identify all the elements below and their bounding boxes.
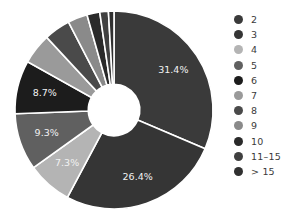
- slice-value-label: 26.4%: [123, 171, 153, 182]
- legend-item[interactable]: 2: [231, 12, 303, 27]
- legend-swatch-icon: [234, 152, 243, 161]
- legend-label: 11–15: [251, 151, 281, 162]
- legend-item[interactable]: 3: [231, 27, 303, 42]
- legend-item[interactable]: > 15: [231, 164, 303, 179]
- legend-item[interactable]: 4: [231, 42, 303, 57]
- chart-legend: 234567891011–15> 15: [231, 12, 303, 190]
- legend-item[interactable]: 11–15: [231, 149, 303, 164]
- legend-label: 10: [251, 136, 264, 147]
- legend-swatch-icon: [234, 106, 243, 115]
- legend-swatch-icon: [234, 167, 243, 176]
- legend-swatch-icon: [234, 15, 243, 24]
- legend-swatch-icon: [234, 76, 243, 85]
- legend-label: > 15: [251, 166, 275, 177]
- figure: 31.4%26.4%7.3%9.3%8.7% 234567891011–15> …: [0, 0, 303, 217]
- legend-swatch-icon: [234, 30, 243, 39]
- legend-item[interactable]: 7: [231, 88, 303, 103]
- legend-swatch-icon: [234, 137, 243, 146]
- legend-label: 7: [251, 90, 257, 101]
- legend-label: 5: [251, 60, 257, 71]
- legend-item[interactable]: 10: [231, 134, 303, 149]
- legend-item[interactable]: 6: [231, 73, 303, 88]
- legend-label: 8: [251, 105, 257, 116]
- legend-swatch-icon: [234, 45, 243, 54]
- donut-slice[interactable]: [114, 11, 213, 149]
- slice-value-label: 31.4%: [158, 64, 188, 75]
- legend-label: 3: [251, 29, 257, 40]
- slice-value-label: 8.7%: [33, 87, 57, 98]
- slice-value-label: 7.3%: [55, 157, 79, 168]
- legend-swatch-icon: [234, 121, 243, 130]
- legend-label: 9: [251, 120, 257, 131]
- legend-item[interactable]: 9: [231, 118, 303, 133]
- legend-item[interactable]: 5: [231, 58, 303, 73]
- donut-chart-svg: 31.4%26.4%7.3%9.3%8.7%: [0, 0, 225, 217]
- slice-value-label: 9.3%: [35, 127, 59, 138]
- legend-swatch-icon: [234, 91, 243, 100]
- legend-label: 6: [251, 75, 257, 86]
- donut-chart: 31.4%26.4%7.3%9.3%8.7%: [0, 0, 225, 217]
- legend-label: 2: [251, 14, 257, 25]
- legend-swatch-icon: [234, 61, 243, 70]
- legend-item[interactable]: 8: [231, 103, 303, 118]
- legend-label: 4: [251, 44, 257, 55]
